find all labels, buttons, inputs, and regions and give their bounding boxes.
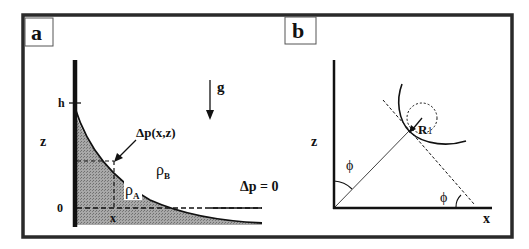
pressure-arrow: [118, 140, 136, 158]
figure: a h z 0 x g Δp(x,z) ρA ρB Δp = 0: [0, 0, 529, 249]
panel-b-label: b: [292, 18, 304, 43]
panel-a: a h z 0 x g Δp(x,z) ρA ρB Δp = 0: [25, 18, 279, 227]
gravity-label: g: [217, 79, 225, 95]
tick-zero-label: 0: [57, 201, 63, 215]
angle-label-2: ϕ: [440, 190, 447, 205]
density-b-label: ρB: [156, 161, 170, 181]
pressure-point-label: Δp(x,z): [136, 125, 176, 140]
angle-label-1: ϕ: [346, 158, 353, 173]
far-field-label: Δp = 0: [240, 179, 279, 194]
tick-x-label: x: [110, 211, 116, 225]
axis-x-label-b: x: [483, 211, 490, 226]
axis-z-label-b: z: [311, 134, 317, 149]
panel-a-label: a: [31, 20, 42, 45]
angle-arc-1: [334, 181, 352, 189]
gravity-arrowhead: [206, 110, 214, 120]
radius-label: R1: [418, 122, 432, 137]
panel-b: b z x R1 ϕ ϕ: [285, 17, 492, 226]
axis-z-label-a: z: [40, 134, 46, 149]
tick-h-label: h: [58, 96, 65, 110]
angle-arc-2: [456, 195, 461, 207]
tangent-dashed: [383, 100, 474, 204]
